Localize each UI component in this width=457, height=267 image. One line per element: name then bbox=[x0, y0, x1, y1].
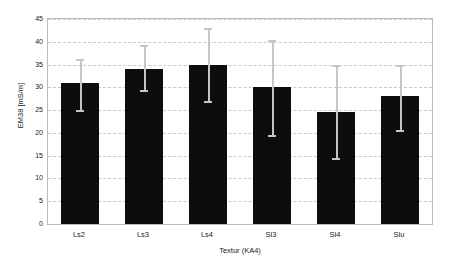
error-cap-lower-Slu bbox=[396, 130, 404, 132]
error-bar-Sl4 bbox=[336, 65, 338, 157]
x-tick-label-Sl3: Sl3 bbox=[239, 231, 303, 239]
bar-Ls3 bbox=[125, 69, 163, 224]
error-cap-lower-Ls3 bbox=[140, 90, 148, 92]
x-tick-label-Ls3: Ls3 bbox=[111, 231, 175, 239]
gridline-40 bbox=[48, 42, 432, 43]
plot-area bbox=[47, 18, 433, 225]
gridline-30 bbox=[48, 87, 432, 88]
gridline-25 bbox=[48, 110, 432, 111]
y-tick-label: 0 bbox=[3, 220, 43, 227]
x-tick-label-Ls4: Ls4 bbox=[175, 231, 239, 239]
error-cap-lower-Ls2 bbox=[76, 110, 84, 112]
gridline-15 bbox=[48, 156, 432, 157]
gridline-5 bbox=[48, 201, 432, 202]
x-axis-tick-mark bbox=[112, 224, 113, 225]
gridline-45 bbox=[48, 19, 432, 20]
error-bar-Ls2 bbox=[80, 59, 82, 110]
y-tick-label: 45 bbox=[3, 15, 43, 22]
x-tick-label-Ls2: Ls2 bbox=[47, 231, 111, 239]
error-cap-upper-Sl4 bbox=[332, 65, 340, 67]
error-cap-upper-Ls3 bbox=[140, 45, 148, 47]
y-tick-label: 5 bbox=[3, 197, 43, 204]
x-axis-tick-mark bbox=[304, 224, 305, 225]
x-tick-label-Slu: Slu bbox=[367, 231, 431, 239]
error-cap-lower-Ls4 bbox=[204, 101, 212, 103]
x-axis-title: Textur (KA4) bbox=[47, 246, 433, 255]
gridline-0 bbox=[48, 224, 432, 225]
error-cap-upper-Ls2 bbox=[76, 59, 84, 61]
gridline-20 bbox=[48, 133, 432, 134]
error-bar-Ls3 bbox=[144, 45, 146, 90]
error-cap-upper-Slu bbox=[396, 65, 404, 67]
x-tick-label-Sl4: Sl4 bbox=[303, 231, 367, 239]
x-axis-tick-mark bbox=[368, 224, 369, 225]
error-bar-Slu bbox=[400, 65, 402, 130]
bar-chart: 051015202530354045 EM38 [mS/m] Ls2Ls3Ls4… bbox=[0, 0, 457, 267]
gridline-10 bbox=[48, 178, 432, 179]
gridline-35 bbox=[48, 65, 432, 66]
x-axis-tick-mark bbox=[176, 224, 177, 225]
error-cap-upper-Ls4 bbox=[204, 28, 212, 30]
error-cap-lower-Sl4 bbox=[332, 158, 340, 160]
x-axis-tick-labels: Ls2Ls3Ls4Sl3Sl4Slu bbox=[47, 231, 433, 243]
x-axis-tick-mark bbox=[240, 224, 241, 225]
error-cap-upper-Sl3 bbox=[268, 40, 276, 42]
y-axis-title: EM38 [mS/m] bbox=[16, 36, 25, 176]
error-cap-lower-Sl3 bbox=[268, 135, 276, 137]
error-bar-Ls4 bbox=[208, 28, 210, 101]
error-bar-Sl3 bbox=[272, 40, 274, 135]
